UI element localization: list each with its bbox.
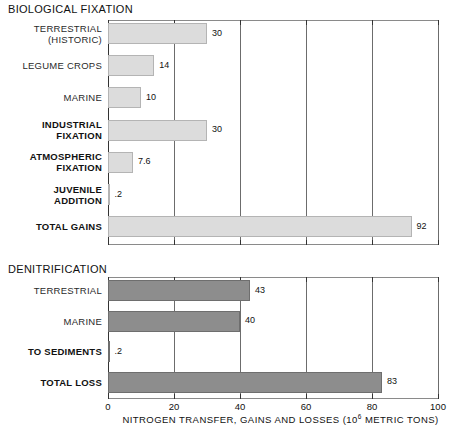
frame-rule-bottom: [108, 244, 438, 245]
bar-label: INDUSTRIAL FIXATION: [0, 119, 102, 141]
bar-row: LEGUME CROPS14: [0, 55, 453, 76]
bar[interactable]: [108, 120, 207, 141]
bar-row: TERRESTRIAL (HISTORIC)30: [0, 23, 453, 44]
tick-bottom-40: [240, 240, 241, 245]
section-header-denitrification: DENITRIFICATION: [8, 263, 107, 275]
bar[interactable]: [108, 87, 141, 108]
tick-bottom-60: [306, 240, 307, 245]
bar-label: ATMOSPHERIC FIXATION: [0, 151, 102, 173]
bar-label: LEGUME CROPS: [0, 60, 102, 71]
x-tick-label-20: 20: [169, 401, 180, 412]
bar-row: ATMOSPHERIC FIXATION7.6: [0, 152, 453, 173]
bar-value-label: 43: [255, 285, 265, 295]
tick-bottom-80: [372, 240, 373, 245]
section-header-biological-fixation: BIOLOGICAL FIXATION: [8, 3, 133, 15]
bar[interactable]: [108, 341, 110, 362]
bar[interactable]: [108, 55, 154, 76]
bar-value-label: 10: [146, 92, 156, 102]
bar[interactable]: [108, 152, 133, 173]
bar[interactable]: [108, 372, 382, 393]
bar[interactable]: [108, 184, 110, 205]
bar-value-label: 7.6: [138, 156, 151, 166]
x-tick-label-40: 40: [235, 401, 246, 412]
bar-value-label: 30: [212, 124, 222, 134]
x-tick-label-60: 60: [301, 401, 312, 412]
bar-value-label: 40: [245, 315, 255, 325]
panel-biological-fixation: TERRESTRIAL (HISTORIC)30LEGUME CROPS14MA…: [0, 20, 453, 245]
bar-row: INDUSTRIAL FIXATION30: [0, 120, 453, 141]
bar-label: MARINE: [0, 316, 102, 327]
x-tick-label-0: 0: [105, 401, 110, 412]
bar-value-label: .2: [115, 189, 123, 199]
x-axis-title: NITROGEN TRANSFER, GAINS AND LOSSES (106…: [108, 414, 453, 425]
bar-row: TOTAL LOSS83: [0, 372, 453, 393]
bar-label: TOTAL LOSS: [0, 377, 102, 388]
bar[interactable]: [108, 311, 240, 332]
bar-row: TERRESTRIAL43: [0, 280, 453, 301]
bar-row: TOTAL GAINS92: [0, 216, 453, 237]
frame-rule-top-2: [108, 277, 438, 278]
nitrogen-transfer-bar-chart: BIOLOGICAL FIXATION TERRESTRIAL (HISTORI…: [0, 0, 453, 430]
bar-row: MARINE10: [0, 87, 453, 108]
bar-value-label: 14: [159, 60, 169, 70]
bar-label: TERRESTRIAL: [0, 285, 102, 296]
bar[interactable]: [108, 280, 250, 301]
tick-bottom-100: [438, 240, 439, 245]
tick-bottom-20: [174, 240, 175, 245]
frame-rule-top: [108, 20, 438, 21]
bar-row: JUVENILE ADDITION.2: [0, 184, 453, 205]
bar-value-label: .2: [115, 346, 123, 356]
bar-label: TERRESTRIAL (HISTORIC): [0, 23, 102, 45]
bar-value-label: 92: [417, 221, 427, 231]
x-tick-label-100: 100: [430, 401, 446, 412]
bar[interactable]: [108, 23, 207, 44]
bar-value-label: 30: [212, 28, 222, 38]
panel-denitrification: TERRESTRIAL43MARINE40TO SEDIMENTS.2TOTAL…: [0, 277, 453, 399]
bar-value-label: 83: [387, 376, 397, 386]
bar-row: MARINE40: [0, 311, 453, 332]
bar-label: MARINE: [0, 92, 102, 103]
bar-row: TO SEDIMENTS.2: [0, 341, 453, 362]
tick-bottom-0: [108, 240, 109, 245]
x-tick-label-80: 80: [367, 401, 378, 412]
bar[interactable]: [108, 216, 412, 237]
bar-label: TOTAL GAINS: [0, 221, 102, 232]
bar-label: TO SEDIMENTS: [0, 346, 102, 357]
x-axis: NITROGEN TRANSFER, GAINS AND LOSSES (106…: [0, 399, 453, 430]
bar-label: JUVENILE ADDITION: [0, 184, 102, 206]
